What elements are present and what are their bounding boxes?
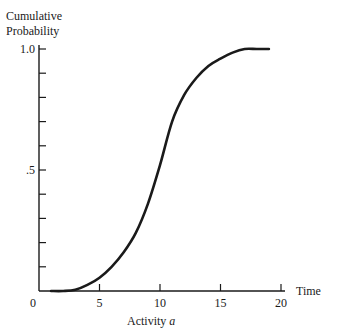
y-tick-label: 1.0 bbox=[20, 42, 35, 56]
x-ticks: 05101520 bbox=[30, 284, 287, 310]
x-tick-label: 10 bbox=[154, 296, 166, 310]
x-axis-title-activity-letter: a bbox=[169, 314, 175, 328]
series-line bbox=[51, 49, 269, 291]
x-axis-title-activity-word: Activity bbox=[127, 314, 166, 328]
y-axis-title-line-2: Probability bbox=[6, 24, 59, 38]
y-ticks: .51.0 bbox=[20, 42, 46, 267]
series-group bbox=[51, 49, 269, 291]
x-tick-label: 5 bbox=[97, 296, 103, 310]
x-axis-title-activity: Activitya bbox=[127, 314, 175, 328]
cumulative-probability-chart: Cumulative Probability .51.0 05101520 Ti… bbox=[0, 0, 339, 336]
y-axis-title-line-1: Cumulative bbox=[6, 9, 62, 23]
y-tick-label: .5 bbox=[26, 163, 35, 177]
x-tick-label: 20 bbox=[275, 296, 287, 310]
x-tick-label: 15 bbox=[215, 296, 227, 310]
y-axis-title: Cumulative Probability bbox=[6, 9, 62, 38]
x-axis-title-time: Time bbox=[296, 284, 321, 298]
x-tick-label: 0 bbox=[30, 296, 36, 310]
